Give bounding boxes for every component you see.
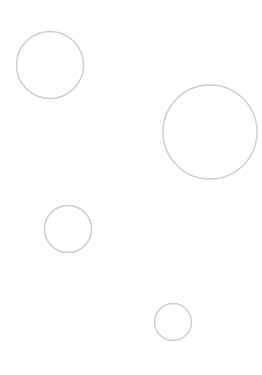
circle-1 xyxy=(17,32,84,99)
circle-4 xyxy=(155,304,192,341)
diagram-canvas xyxy=(0,0,262,375)
circle-2 xyxy=(163,85,257,179)
circles-layer xyxy=(0,0,262,375)
circle-3 xyxy=(45,206,92,253)
